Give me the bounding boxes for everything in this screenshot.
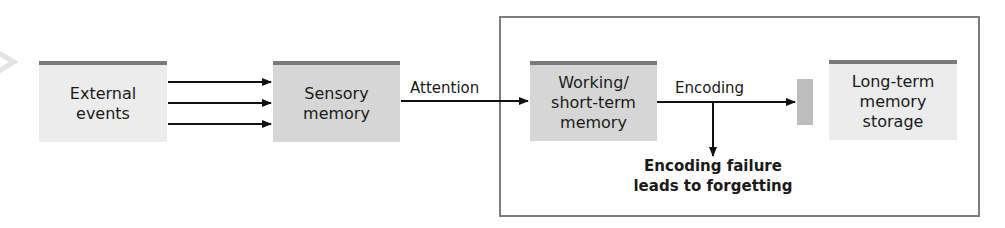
encoding-failure-label: Encoding failure leads to forgetting (633, 156, 793, 196)
encoding-failure-line-2: leads to forgetting (633, 176, 793, 196)
attention-label: Attention (410, 79, 479, 97)
encoding-failure-line-1: Encoding failure (633, 156, 793, 176)
encoding-label: Encoding (675, 79, 744, 97)
arrows-layer (0, 0, 1005, 228)
input-arrows (168, 82, 271, 124)
